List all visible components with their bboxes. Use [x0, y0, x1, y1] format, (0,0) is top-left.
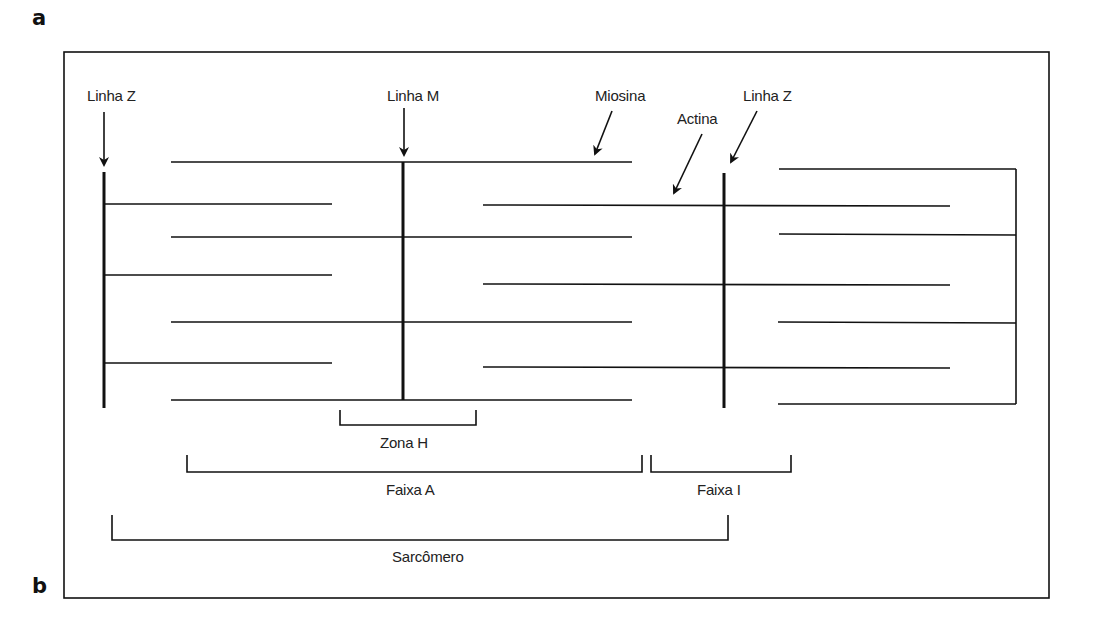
label-a-band: Faixa A: [386, 481, 435, 498]
arrow-myosin: [595, 111, 612, 154]
label-h-zone: Zona H: [380, 434, 428, 451]
arrows: [104, 108, 757, 193]
sarcomere-diagram: Linha Z Linha M Miosina Actina Linha Z Z…: [0, 0, 1096, 630]
label-z-line-right: Linha Z: [743, 87, 792, 104]
brackets: [112, 410, 791, 540]
bracket-sarcomere: [112, 515, 728, 540]
bracket-i-band: [651, 455, 791, 472]
label-m-line: Linha M: [387, 87, 439, 104]
label-i-band: Faixa I: [697, 481, 741, 498]
actin-filaments-right: [483, 205, 950, 368]
label-z-line-left: Linha Z: [87, 87, 136, 104]
bracket-h-zone: [340, 410, 476, 425]
arrow-actin: [674, 134, 702, 193]
label-sarcomere: Sarcômero: [392, 548, 464, 565]
bracket-a-band: [187, 455, 642, 472]
myosin-comb-right: [778, 169, 1016, 404]
arrow-z-line-right: [731, 111, 757, 162]
label-myosin: Miosina: [595, 87, 646, 104]
actin-filaments-left: [104, 204, 332, 363]
diagram-frame: [64, 52, 1049, 598]
label-actin: Actina: [677, 110, 718, 127]
